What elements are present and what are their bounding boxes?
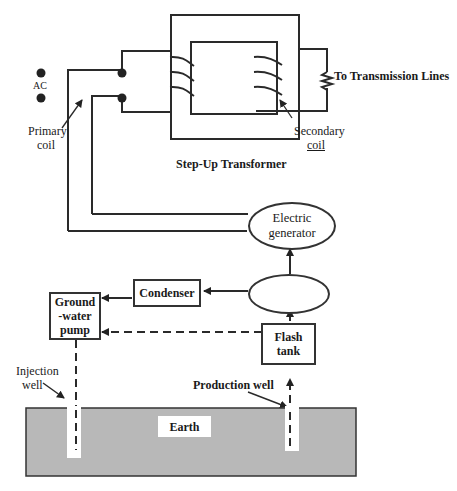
- secondary-coil-label-2: coil: [307, 138, 325, 152]
- electric-generator: Electricgenerator: [248, 202, 336, 250]
- primary-coil-label-2: coil: [37, 138, 55, 152]
- flash-tank-box: Flash tank: [261, 323, 316, 365]
- ac-terminal-bottom: [37, 94, 46, 103]
- ac-label: AC: [33, 79, 47, 93]
- transformer-inner-core: [191, 42, 277, 114]
- turbine: [248, 274, 330, 314]
- secondary-coil-label-1: Secondary: [294, 124, 345, 138]
- groundwater-pump-box: Ground -water pump: [49, 292, 101, 340]
- production-well-label: Production well: [193, 378, 274, 392]
- injection-well-label-2: well: [22, 378, 43, 392]
- transmission-lines-label: To Transmission Lines: [334, 69, 449, 83]
- primary-coil-label-1: Primary: [28, 124, 67, 138]
- injection-well-label-1: Injection: [16, 364, 59, 378]
- condenser-box: Condenser: [133, 279, 201, 307]
- ac-terminal-top: [37, 69, 46, 78]
- transformer-title: Step-Up Transformer: [176, 157, 287, 171]
- earth-label: Earth: [158, 416, 211, 437]
